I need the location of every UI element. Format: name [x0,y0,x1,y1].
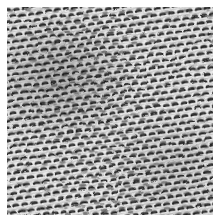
woven-texture-canvas [7,7,213,215]
texture-plate [7,7,213,215]
texture-image-root: Close-up grayscale photograph of a dense… [0,0,216,219]
scan-grain [7,7,213,215]
